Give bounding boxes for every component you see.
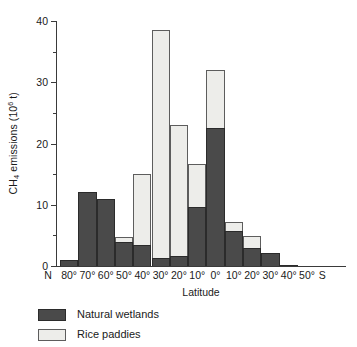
- y-axis-tick-label-10: 10: [36, 200, 48, 211]
- legend-label-natural-wetlands: Natural wetlands: [77, 309, 159, 320]
- y-axis-tick-label-20: 20: [36, 138, 48, 149]
- bar-segment-rice-paddies: [243, 236, 261, 248]
- bar-column: [225, 222, 243, 266]
- bar-column: [188, 164, 206, 266]
- x-axis-tick-label-8: 0°: [211, 270, 221, 281]
- bar-column: [243, 236, 261, 266]
- legend-item-natural-wetlands: Natural wetlands: [38, 306, 298, 323]
- bar-column: [97, 199, 115, 266]
- bar-segment-natural-wetlands: [60, 260, 78, 266]
- x-axis-tick-label-13: 50°: [299, 270, 315, 281]
- y-axis-title-mid: emissions (10: [7, 106, 19, 175]
- bar-segment-natural-wetlands: [188, 207, 206, 266]
- x-axis-tick-label-4: 40°: [134, 270, 150, 281]
- y-axis-title-subscript: 4: [12, 175, 21, 179]
- x-axis-label-north: N: [44, 270, 52, 281]
- bar-segment-natural-wetlands: [261, 253, 279, 266]
- bar-segment-rice-paddies: [188, 164, 206, 207]
- x-axis-tick-label-3: 50°: [116, 270, 132, 281]
- bar-segment-natural-wetlands: [78, 192, 96, 266]
- x-axis-tick-label-11: 30°: [262, 270, 278, 281]
- light-gray-swatch: [38, 329, 66, 341]
- y-axis-tick-label-30: 30: [36, 77, 48, 88]
- x-axis-label-south: S: [319, 270, 326, 281]
- bar-segment-natural-wetlands: [225, 231, 243, 266]
- y-axis-title: CH4 emissions (106 t): [2, 21, 24, 266]
- x-axis-tick-label-7: 10°: [189, 270, 205, 281]
- x-axis-tick-label-12: 40°: [281, 270, 297, 281]
- bar-segment-natural-wetlands: [97, 199, 115, 266]
- plot-area: 010203040: [57, 21, 345, 266]
- chart-legend: Natural wetlands Rice paddies: [38, 306, 298, 346]
- x-axis-title: Latitude: [57, 286, 345, 298]
- bar-column: [206, 70, 224, 266]
- y-axis-tick-label-40: 40: [36, 16, 48, 27]
- dark-gray-swatch: [38, 309, 66, 321]
- bar-segment-rice-paddies: [206, 70, 224, 128]
- x-axis-tick-label-0: 80°: [61, 270, 77, 281]
- x-axis-tick-label-5: 30°: [153, 270, 169, 281]
- y-axis-title-prefix: CH: [7, 179, 19, 194]
- bar-segment-natural-wetlands: [170, 256, 188, 266]
- x-axis-tick-label-2: 60°: [98, 270, 114, 281]
- y-axis-tick-0: 0: [51, 266, 57, 267]
- bar-column: [115, 237, 133, 266]
- bar-segment-natural-wetlands: [206, 128, 224, 266]
- bar-column: [133, 174, 151, 266]
- bar-column: [261, 253, 279, 266]
- x-axis-tick-label-9: 10°: [226, 270, 242, 281]
- bar-column: [170, 125, 188, 266]
- bar-segment-rice-paddies: [170, 125, 188, 255]
- methane-emissions-by-latitude-chart: CH4 emissions (106 t) 010203040 N80°70°6…: [0, 0, 357, 347]
- bar-segment-rice-paddies: [152, 30, 170, 258]
- bar-segment-natural-wetlands: [243, 248, 261, 266]
- legend-item-rice-paddies: Rice paddies: [38, 326, 298, 343]
- x-axis-tick-label-1: 70°: [79, 270, 95, 281]
- y-axis-title-superscript: 6: [7, 102, 14, 106]
- x-axis-tick-label-6: 20°: [171, 270, 187, 281]
- bar-column: [152, 30, 170, 266]
- bar-segment-natural-wetlands: [280, 265, 298, 267]
- x-axis-tick-label-10: 20°: [244, 270, 260, 281]
- x-axis-tick-labels: N80°70°60°50°40°30°20°10°0°10°20°30°40°5…: [0, 270, 357, 284]
- legend-label-rice-paddies: Rice paddies: [77, 329, 141, 340]
- bar-segment-rice-paddies: [225, 222, 243, 231]
- bar-series-group: [57, 21, 345, 266]
- bar-segment-rice-paddies: [133, 174, 151, 245]
- bar-segment-natural-wetlands: [152, 258, 170, 266]
- bar-segment-natural-wetlands: [115, 242, 133, 267]
- bar-column: [60, 260, 78, 266]
- bar-column: [280, 265, 298, 267]
- bar-column: [78, 192, 96, 266]
- x-axis-line: [56, 266, 346, 267]
- y-axis-title-text: CH4 emissions (106 t): [8, 92, 19, 194]
- bar-segment-natural-wetlands: [133, 245, 151, 266]
